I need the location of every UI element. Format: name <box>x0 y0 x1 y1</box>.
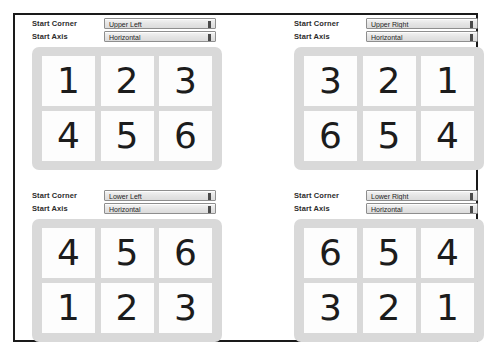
start-axis-select[interactable]: Horizontal <box>366 31 478 42</box>
setting-row-start-corner: Start Corner Upper Right <box>294 18 492 29</box>
window-frame: Start Corner Upper Left Start Axis Horiz… <box>13 13 478 342</box>
grid-cell[interactable]: 2 <box>363 283 416 333</box>
start-axis-label: Start Axis <box>32 31 104 42</box>
grid-cell[interactable]: 3 <box>159 56 212 106</box>
start-axis-label: Start Axis <box>294 31 366 42</box>
number-grid-upper-right: 3 2 1 6 5 4 <box>294 47 484 170</box>
start-axis-select[interactable]: Horizontal <box>104 31 216 42</box>
start-axis-label: Start Axis <box>32 203 104 214</box>
grid-cell[interactable]: 6 <box>159 228 212 278</box>
chevron-updown-icon <box>467 205 475 214</box>
grid-cell[interactable]: 1 <box>42 56 95 106</box>
start-corner-select[interactable]: Lower Right <box>366 190 478 201</box>
grid-row: 3 2 1 <box>304 56 474 106</box>
grid-cell[interactable]: 5 <box>101 228 154 278</box>
setting-row-start-corner: Start Corner Lower Left <box>32 190 232 201</box>
chevron-updown-icon <box>205 33 213 42</box>
number-grid-lower-left: 4 5 6 1 2 3 <box>32 219 222 342</box>
grid-cell[interactable]: 4 <box>42 111 95 161</box>
grid-cell[interactable]: 3 <box>304 56 357 106</box>
start-corner-select[interactable]: Upper Left <box>104 18 216 29</box>
start-corner-label: Start Corner <box>32 18 104 29</box>
chevron-updown-icon <box>205 20 213 29</box>
start-corner-label: Start Corner <box>32 190 104 201</box>
grid-row: 4 5 6 <box>42 111 212 161</box>
panel-upper-left: Start Corner Upper Left Start Axis Horiz… <box>32 18 232 170</box>
grid-cell[interactable]: 2 <box>101 283 154 333</box>
grid-cell[interactable]: 5 <box>101 111 154 161</box>
setting-row-start-axis: Start Axis Horizontal <box>294 31 492 42</box>
start-axis-label: Start Axis <box>294 203 366 214</box>
grid-cell[interactable]: 5 <box>363 111 416 161</box>
panel-upper-right: Start Corner Upper Right Start Axis Hori… <box>294 18 492 170</box>
start-axis-value: Horizontal <box>371 32 463 42</box>
number-grid-lower-right: 6 5 4 3 2 1 <box>294 219 484 342</box>
chevron-updown-icon <box>467 20 475 29</box>
setting-row-start-corner: Start Corner Upper Left <box>32 18 232 29</box>
start-corner-label: Start Corner <box>294 190 366 201</box>
start-corner-value: Lower Right <box>371 191 463 201</box>
grid-cell[interactable]: 4 <box>421 228 474 278</box>
start-axis-value: Horizontal <box>109 32 201 42</box>
grid-cell[interactable]: 4 <box>42 228 95 278</box>
screenshot-root: Start Corner Upper Left Start Axis Horiz… <box>0 0 492 356</box>
setting-row-start-axis: Start Axis Horizontal <box>32 203 232 214</box>
grid-row: 3 2 1 <box>304 283 474 333</box>
start-axis-select[interactable]: Horizontal <box>366 203 478 214</box>
grid-cell[interactable]: 4 <box>421 111 474 161</box>
chevron-updown-icon <box>205 205 213 214</box>
grid-cell[interactable]: 5 <box>363 228 416 278</box>
grid-cell[interactable]: 6 <box>304 111 357 161</box>
number-grid-upper-left: 1 2 3 4 5 6 <box>32 47 222 170</box>
start-corner-label: Start Corner <box>294 18 366 29</box>
setting-row-start-corner: Start Corner Lower Right <box>294 190 492 201</box>
grid-cell[interactable]: 6 <box>304 228 357 278</box>
grid-cell[interactable]: 3 <box>304 283 357 333</box>
grid-row: 6 5 4 <box>304 111 474 161</box>
grid-cell[interactable]: 3 <box>159 283 212 333</box>
start-corner-select[interactable]: Lower Left <box>104 190 216 201</box>
setting-row-start-axis: Start Axis Horizontal <box>32 31 232 42</box>
grid-cell[interactable]: 1 <box>42 283 95 333</box>
start-corner-value: Upper Right <box>371 19 463 29</box>
settings-lower-left: Start Corner Lower Left Start Axis Horiz… <box>32 190 232 214</box>
start-axis-value: Horizontal <box>109 204 201 214</box>
settings-upper-right: Start Corner Upper Right Start Axis Hori… <box>294 18 492 42</box>
settings-lower-right: Start Corner Lower Right Start Axis Hori… <box>294 190 492 214</box>
start-corner-value: Upper Left <box>109 19 201 29</box>
grid-cell[interactable]: 1 <box>421 56 474 106</box>
panel-lower-right: Start Corner Lower Right Start Axis Hori… <box>294 190 492 342</box>
start-corner-select[interactable]: Upper Right <box>366 18 478 29</box>
grid-row: 6 5 4 <box>304 228 474 278</box>
start-axis-select[interactable]: Horizontal <box>104 203 216 214</box>
grid-row: 1 2 3 <box>42 56 212 106</box>
grid-cell[interactable]: 6 <box>159 111 212 161</box>
chevron-updown-icon <box>467 192 475 201</box>
panel-lower-left: Start Corner Lower Left Start Axis Horiz… <box>32 190 232 342</box>
grid-cell[interactable]: 1 <box>421 283 474 333</box>
chevron-updown-icon <box>205 192 213 201</box>
chevron-updown-icon <box>467 33 475 42</box>
grid-row: 4 5 6 <box>42 228 212 278</box>
start-corner-value: Lower Left <box>109 191 201 201</box>
setting-row-start-axis: Start Axis Horizontal <box>294 203 492 214</box>
settings-upper-left: Start Corner Upper Left Start Axis Horiz… <box>32 18 232 42</box>
start-axis-value: Horizontal <box>371 204 463 214</box>
grid-cell[interactable]: 2 <box>101 56 154 106</box>
grid-cell[interactable]: 2 <box>363 56 416 106</box>
grid-row: 1 2 3 <box>42 283 212 333</box>
